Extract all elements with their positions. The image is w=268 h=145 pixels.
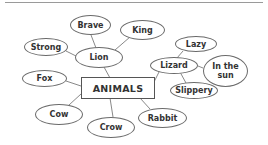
node-crow: Crow bbox=[87, 117, 135, 138]
link-brave-lion bbox=[91, 35, 96, 48]
node-strong: Strong bbox=[24, 38, 68, 56]
center-node-animals: ANIMALS bbox=[81, 77, 155, 99]
node-king: King bbox=[120, 20, 165, 40]
center-label: ANIMALS bbox=[93, 83, 144, 94]
node-label-line1: In the bbox=[212, 62, 238, 71]
node-label: Slippery bbox=[175, 86, 212, 95]
link-fox-animals bbox=[66, 81, 81, 86]
node-lizard: Lizard bbox=[150, 57, 198, 74]
node-label: Lion bbox=[89, 53, 108, 62]
link-crow-animals bbox=[110, 98, 113, 117]
link-cow-animals bbox=[69, 94, 81, 105]
node-label: Strong bbox=[31, 43, 61, 52]
node-fox: Fox bbox=[22, 70, 67, 87]
node-in-the-sun: In the sun bbox=[203, 55, 248, 87]
node-label: Cow bbox=[50, 110, 69, 119]
node-rabbit: Rabbit bbox=[138, 108, 187, 128]
node-slippery: Slippery bbox=[170, 82, 218, 99]
node-label: Rabbit bbox=[148, 114, 178, 123]
node-label: Brave bbox=[77, 21, 103, 30]
link-king-lion bbox=[115, 37, 130, 50]
node-brave: Brave bbox=[70, 15, 111, 35]
node-label-line2: sun bbox=[217, 71, 233, 80]
node-cow: Cow bbox=[35, 104, 83, 125]
node-lion: Lion bbox=[75, 47, 123, 68]
node-lazy: Lazy bbox=[175, 36, 217, 52]
node-label: Fox bbox=[37, 74, 53, 83]
node-label: King bbox=[132, 26, 152, 35]
node-label: Lizard bbox=[160, 61, 188, 70]
link-rabbit-animals bbox=[140, 98, 150, 109]
node-label: Crow bbox=[100, 123, 123, 132]
node-label: Lazy bbox=[186, 40, 206, 49]
